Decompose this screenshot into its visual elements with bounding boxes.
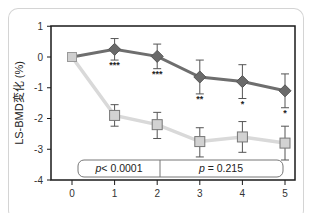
square-marker bbox=[110, 110, 120, 120]
series-group: ********** bbox=[68, 39, 292, 160]
series-line bbox=[72, 49, 285, 91]
diamond-series: ********** bbox=[68, 39, 292, 118]
plot-frame bbox=[51, 26, 295, 180]
square-marker bbox=[280, 138, 290, 148]
y-tick-label: -2 bbox=[34, 113, 43, 124]
x-tick-label: 0 bbox=[69, 188, 75, 199]
p-value-left: p< 0.0001 bbox=[94, 162, 142, 174]
y-tick-label: 1 bbox=[37, 21, 43, 32]
square-marker bbox=[237, 132, 247, 142]
square-marker bbox=[195, 137, 205, 147]
diamond-marker bbox=[236, 76, 248, 88]
diamond-marker bbox=[109, 43, 121, 55]
x-tick-label: 5 bbox=[282, 188, 288, 199]
x-tick-label: 3 bbox=[197, 188, 203, 199]
square-series bbox=[68, 53, 291, 161]
line-chart: 10-1-2-3-4 012345 LS-BMD変化 (%) *********… bbox=[0, 0, 313, 213]
y-tick-label: -1 bbox=[34, 82, 43, 93]
p-value-right: p = 0.215 bbox=[198, 162, 243, 174]
y-tick-label: 0 bbox=[37, 52, 43, 63]
diamond-marker bbox=[151, 50, 163, 62]
significance-marker: * bbox=[283, 108, 287, 118]
p-value-box: p< 0.0001 p = 0.215 bbox=[78, 160, 283, 177]
x-tick-label: 1 bbox=[112, 188, 118, 199]
y-axis: 10-1-2-3-4 bbox=[34, 21, 51, 186]
significance-marker: * bbox=[241, 99, 245, 109]
square-marker bbox=[68, 53, 77, 62]
significance-marker: *** bbox=[152, 69, 163, 79]
x-axis: 012345 bbox=[69, 180, 288, 199]
significance-marker: ** bbox=[196, 94, 204, 104]
series-line bbox=[72, 57, 285, 143]
significance-marker: *** bbox=[109, 60, 120, 70]
diamond-marker bbox=[194, 71, 206, 83]
x-tick-label: 2 bbox=[154, 188, 160, 199]
y-tick-label: -3 bbox=[34, 144, 43, 155]
x-tick-label: 4 bbox=[240, 188, 246, 199]
square-marker bbox=[152, 120, 162, 130]
y-axis-label: LS-BMD変化 (%) bbox=[12, 61, 25, 145]
diamond-marker bbox=[279, 85, 291, 97]
y-tick-label: -4 bbox=[34, 175, 43, 186]
